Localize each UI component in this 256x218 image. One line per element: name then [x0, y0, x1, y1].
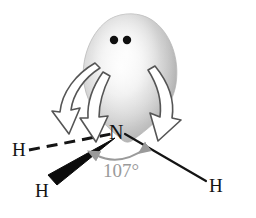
- atom-label-nitrogen: N: [109, 122, 123, 142]
- bond-angle-label: 107°: [103, 160, 139, 182]
- atom-label-hydrogen-left: H: [12, 140, 26, 159]
- atom-label-hydrogen-right: H: [209, 176, 223, 195]
- repulsion-arrow-right: [148, 66, 181, 141]
- atom-label-hydrogen-bottom: H: [35, 181, 49, 200]
- repulsion-arrow-inner-left: [80, 72, 110, 142]
- figure-canvas: N H H H 107°: [0, 0, 256, 218]
